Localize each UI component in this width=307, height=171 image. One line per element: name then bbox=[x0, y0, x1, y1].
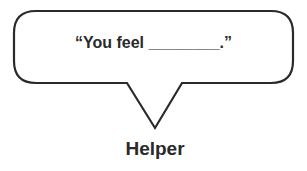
speaker-label: Helper bbox=[105, 138, 205, 160]
bubble-text: “You feel ________.” bbox=[14, 34, 293, 52]
